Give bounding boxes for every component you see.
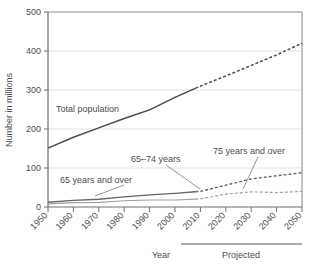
y-axis-title: Number in millions xyxy=(4,72,14,147)
y-tick-labels: 500 400 300 200 100 0 xyxy=(26,7,41,212)
annotation-total-population: Total population xyxy=(56,104,119,114)
x-tick-label-2040: 2040 xyxy=(257,210,278,231)
x-tick-label-2010: 2010 xyxy=(181,210,202,231)
x-tick-label-1980: 1980 xyxy=(104,210,125,231)
population-line-chart: 500 400 300 200 100 0 1950 1960 1970 xyxy=(0,0,312,265)
x-tick-label-2030: 2030 xyxy=(231,210,252,231)
annotation-65-74-years: 65–74 years xyxy=(131,154,181,164)
x-tick-marks xyxy=(48,207,302,212)
y-tick-label-500: 500 xyxy=(26,7,41,17)
annotation-65-and-over: 65 years and over xyxy=(60,175,132,185)
x-tick-label-1950: 1950 xyxy=(28,210,49,231)
x-tick-label-1990: 1990 xyxy=(130,210,151,231)
y-tick-label-100: 100 xyxy=(26,163,41,173)
x-tick-label-2020: 2020 xyxy=(206,210,227,231)
x-tick-label-1970: 1970 xyxy=(79,210,100,231)
x-tick-labels: 1950 1960 1970 1980 1990 2000 2010 2020 … xyxy=(28,210,303,231)
x-tick-label-1960: 1960 xyxy=(54,210,75,231)
y-tick-label-400: 400 xyxy=(26,46,41,56)
x-tick-label-2050: 2050 xyxy=(282,210,303,231)
annotation-75-and-over: 75 years and over xyxy=(213,146,285,156)
y-tick-label-0: 0 xyxy=(36,202,41,212)
y-tick-label-200: 200 xyxy=(26,124,41,134)
chart-container: 500 400 300 200 100 0 1950 1960 1970 xyxy=(0,0,312,265)
x-axis-title: Year xyxy=(152,250,170,260)
y-tick-label-300: 300 xyxy=(26,85,41,95)
x-tick-label-2000: 2000 xyxy=(155,210,176,231)
projected-label: Projected xyxy=(222,250,260,260)
